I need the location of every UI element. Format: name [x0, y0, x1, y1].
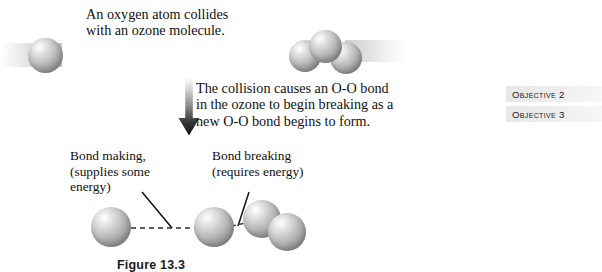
- ozone-atom-sphere-top: [309, 30, 342, 63]
- objective-badge-3[interactable]: Objective 3: [506, 106, 602, 122]
- figure-caption: Figure 13.3: [117, 258, 185, 272]
- oxygen-molecule-sphere-lower: [268, 213, 306, 251]
- leader-line-bond-making: [142, 192, 172, 228]
- intro-annotation: An oxygen atom collides with an ozone mo…: [86, 6, 228, 39]
- oxygen-atom-sphere-center: [194, 207, 234, 247]
- objective-badge-list: Objective 2 Objective 3: [506, 86, 602, 126]
- oxygen-atom-sphere-free: [91, 207, 131, 247]
- objective-badge-2[interactable]: Objective 2: [506, 86, 602, 102]
- bond-making-label: Bond making, (supplies some energy): [70, 148, 150, 195]
- bond-breaking-label: Bond breaking (requires energy): [212, 148, 304, 179]
- objective-badge-2-label: Objective 2: [512, 89, 565, 100]
- collision-annotation: The collision causes an O-O bond in the …: [196, 80, 393, 129]
- objective-badge-3-label: Objective 3: [512, 109, 565, 120]
- oxygen-atom-sphere-top: [28, 38, 63, 73]
